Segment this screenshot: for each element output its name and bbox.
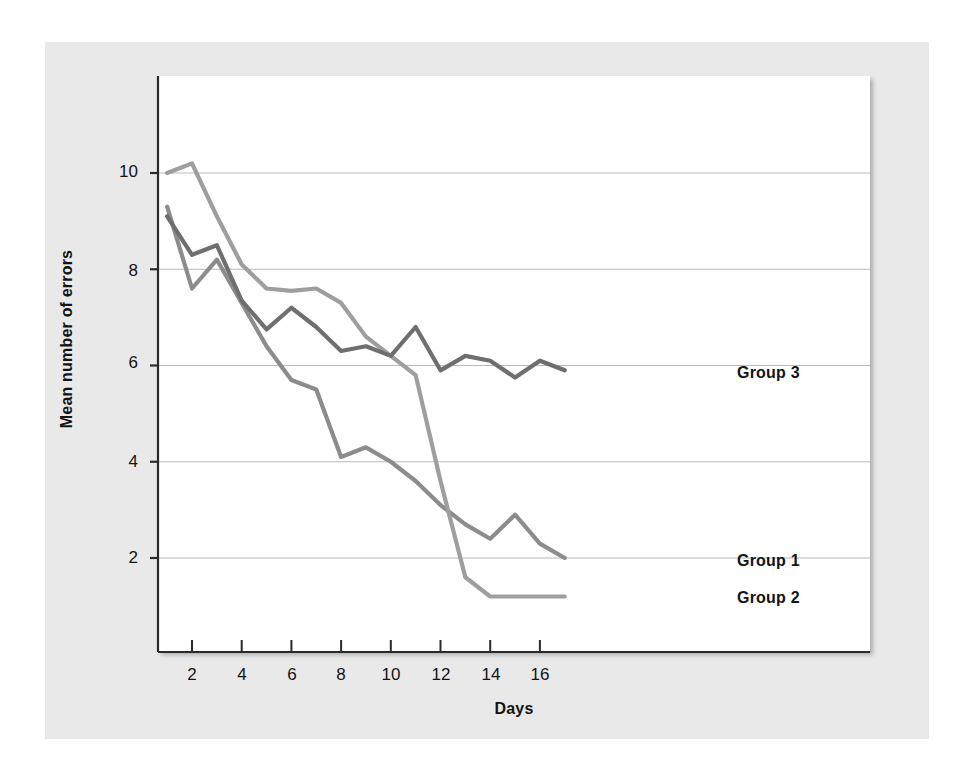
chart-figure: 10 8 6 4 2 2 4 6 8 10 12 14 16 Mean numb… [0, 0, 961, 783]
x-tick-label-8: 8 [321, 665, 361, 685]
y-tick-label-8: 8 [98, 261, 138, 281]
x-tick-label-4: 4 [222, 665, 262, 685]
x-tick-label-12: 12 [421, 665, 461, 685]
x-tick-label-2: 2 [172, 665, 212, 685]
y-tick-label-10: 10 [98, 162, 138, 182]
x-tick-label-10: 10 [371, 665, 411, 685]
x-tick-label-6: 6 [272, 665, 312, 685]
series-label-group-2: Group 2 [737, 589, 800, 607]
data-series-group [167, 163, 565, 596]
series-line-group-3 [167, 216, 565, 377]
x-tick-label-16: 16 [520, 665, 560, 685]
y-tick-label-2: 2 [98, 548, 138, 568]
x-tick-label-14: 14 [471, 665, 511, 685]
y-axis-title: Mean number of errors [58, 209, 76, 469]
series-line-group-2 [167, 163, 565, 596]
y-tick-label-4: 4 [98, 452, 138, 472]
axis-ticks [150, 173, 540, 652]
series-line-group-1 [167, 207, 565, 558]
series-label-group-1: Group 1 [737, 552, 800, 570]
x-axis-title: Days [158, 700, 870, 718]
series-label-group-3: Group 3 [737, 364, 800, 382]
y-tick-label-6: 6 [98, 353, 138, 373]
